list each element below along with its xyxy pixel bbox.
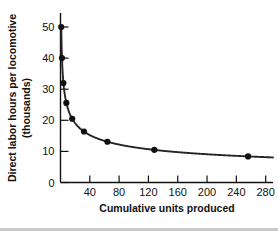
data-point-marker <box>69 116 75 122</box>
data-point-marker <box>59 55 65 61</box>
data-point-marker <box>151 147 157 153</box>
data-point-group <box>58 24 251 160</box>
chart-figure: 01020304050 4080120160200240280 Cumulati… <box>0 0 278 231</box>
x-tick-label: 240 <box>227 186 245 198</box>
y-tick-label: 50 <box>42 21 54 33</box>
x-tick-group: 4080120160200240280 <box>84 176 275 198</box>
y-tick-label: 20 <box>42 114 54 126</box>
x-axis-title: Cumulative units produced <box>99 202 234 214</box>
y-axis-title-line2: (thousands) <box>20 78 32 138</box>
x-tick-label: 160 <box>169 186 187 198</box>
y-axis-title-line1: Direct labor hours per locomotive <box>6 14 18 182</box>
y-tick-label: 10 <box>42 145 54 157</box>
x-tick-label: 80 <box>113 186 125 198</box>
data-point-marker <box>245 153 251 159</box>
data-point-marker <box>60 80 66 86</box>
data-point-marker <box>81 128 87 134</box>
y-tick-label: 30 <box>42 83 54 95</box>
x-tick-label: 280 <box>256 186 274 198</box>
data-point-marker <box>58 24 64 30</box>
data-point-marker <box>63 100 69 106</box>
x-tick-label: 40 <box>84 186 96 198</box>
data-point-marker <box>104 139 110 145</box>
y-tick-label: 0 <box>48 177 54 189</box>
y-tick-label: 40 <box>42 52 54 64</box>
x-tick-label: 120 <box>139 186 157 198</box>
learning-curve-chart: 01020304050 4080120160200240280 Cumulati… <box>0 0 278 231</box>
data-curve <box>61 27 273 157</box>
x-tick-label: 200 <box>198 186 216 198</box>
bottom-divider <box>0 228 278 231</box>
